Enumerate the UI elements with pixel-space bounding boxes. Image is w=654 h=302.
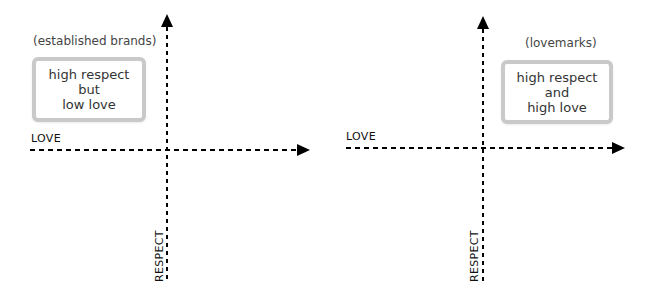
quadrant-box: high respect and high love — [501, 60, 613, 124]
box-line: low love — [62, 97, 116, 112]
quadrant-caption: (established brands) — [33, 34, 156, 48]
quadrant-box: high respect but low love — [32, 57, 146, 122]
x-axis-label: LOVE — [346, 130, 376, 143]
box-line: high respect — [49, 67, 130, 82]
axes-graphic — [327, 0, 654, 302]
arrow-right-icon — [297, 144, 310, 156]
x-axis-label: LOVE — [31, 132, 61, 145]
box-line: but — [78, 82, 100, 97]
y-axis-label: RESPECT — [468, 230, 481, 282]
arrow-up-icon — [477, 16, 489, 29]
box-line: high respect — [517, 70, 598, 85]
y-axis-label: RESPECT — [153, 230, 166, 282]
box-line: and — [545, 85, 569, 100]
respect-love-diagram-lovemarks: (lovemarks) high respect and high love L… — [327, 0, 654, 302]
box-line: high love — [527, 100, 587, 115]
arrow-up-icon — [161, 14, 173, 27]
arrow-right-icon — [612, 142, 625, 154]
quadrant-caption: (lovemarks) — [525, 36, 597, 50]
respect-love-diagram-established-brands: (established brands) high respect but lo… — [0, 0, 327, 302]
